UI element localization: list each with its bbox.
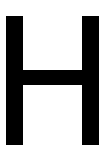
letter-h-text: H xyxy=(0,0,1,1)
left-stem xyxy=(6,16,23,145)
crossbar xyxy=(23,70,82,85)
letter-h-glyph: H xyxy=(0,0,105,152)
right-stem xyxy=(82,16,99,145)
